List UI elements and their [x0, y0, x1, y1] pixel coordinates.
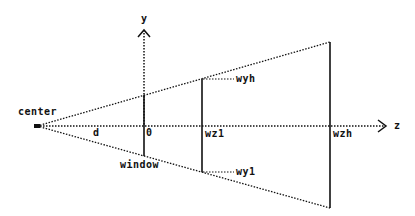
wy1-label: wy1	[236, 167, 256, 177]
frustum-bottom-edge	[37, 126, 330, 208]
window-label: window	[120, 160, 159, 170]
wz1-label: wz1	[205, 129, 225, 139]
frustum-diagram: y z center d 0 window wz1 wzh wyh wy1	[0, 0, 415, 216]
eye-icon	[34, 124, 40, 128]
diagram-canvas	[0, 0, 415, 216]
wyh-label: wyh	[236, 74, 256, 84]
distance-label: d	[93, 128, 100, 138]
frustum-top-edge	[37, 42, 330, 126]
y-axis-label: y	[141, 14, 148, 24]
z-axis-label: z	[394, 121, 401, 131]
wzh-label: wzh	[333, 129, 353, 139]
origin-label: 0	[146, 128, 153, 138]
center-label: center	[18, 107, 57, 117]
